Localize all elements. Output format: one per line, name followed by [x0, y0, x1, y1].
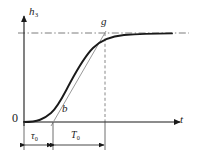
x-axis-label: t [180, 114, 183, 125]
y-axis-label-text: h [29, 5, 35, 17]
delay-dimension-label: τ0 [31, 131, 38, 141]
delay-subscript: 0 [35, 135, 38, 142]
response-curve [24, 33, 172, 122]
point-g-label: g [101, 16, 107, 27]
step-response-figure: h3 t 0 g b τ0 T0 [0, 0, 200, 165]
point-b-label: b [62, 103, 68, 114]
y-axis-label-subscript: 3 [35, 11, 38, 18]
time-constant-symbol: T [71, 129, 77, 140]
plot-canvas [0, 0, 200, 165]
y-axis-label: h3 [29, 6, 38, 17]
time-constant-subscript: 0 [77, 134, 80, 141]
inflection-tangent-line [51, 31, 106, 126]
origin-label: 0 [12, 112, 18, 124]
time-constant-dimension-label: T0 [71, 130, 80, 140]
